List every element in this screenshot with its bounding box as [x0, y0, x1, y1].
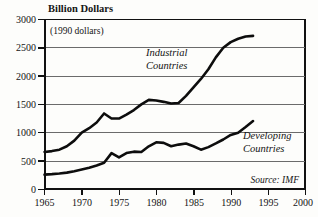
x-tick-label-1990: 1990	[221, 197, 241, 208]
chart-figure: 3000 2500 2000 1500 1000 500 0 1965 1970…	[0, 0, 318, 217]
x-tick-label-1980: 1980	[147, 197, 167, 208]
x-tick-label-1975: 1975	[109, 197, 129, 208]
y-tick-label-3000: 3000	[16, 14, 36, 25]
developing-label-line2: Countries	[243, 143, 284, 154]
series-line-developing-countries	[45, 121, 254, 174]
line-chart: 3000 2500 2000 1500 1000 500 0 1965 1970…	[0, 0, 318, 217]
y-tick-label-0: 0	[31, 184, 36, 195]
x-tick-label-1970: 1970	[72, 197, 92, 208]
units-annotation: (1990 dollars)	[50, 26, 104, 37]
industrial-label-line2: Countries	[146, 60, 187, 71]
developing-label-line1: Developing	[242, 130, 291, 141]
y-tick-label-1500: 1500	[16, 99, 36, 110]
y-tick-label-2000: 2000	[16, 71, 36, 82]
series-label-developing: Developing Countries	[242, 130, 291, 154]
x-tick-label-1985: 1985	[184, 197, 204, 208]
source-label: Source: IMF	[251, 175, 300, 185]
y-tick-label-2500: 2500	[16, 42, 36, 53]
x-tick-label-2000: 2000	[293, 197, 313, 208]
industrial-label-line1: Industrial	[145, 47, 188, 58]
series-label-industrial: Industrial Countries	[145, 47, 188, 71]
y-tick-label-1000: 1000	[16, 127, 36, 138]
y-axis: 3000 2500 2000 1500 1000 500 0	[16, 14, 45, 195]
x-axis: 1965 1970 1975 1980 1985 1990 1995 2000	[35, 189, 314, 208]
y-tick-label-500: 500	[21, 156, 36, 167]
x-tick-label-1965: 1965	[35, 197, 55, 208]
x-tick-label-1995: 1995	[259, 197, 279, 208]
chart-title: Billion Dollars	[48, 3, 113, 14]
